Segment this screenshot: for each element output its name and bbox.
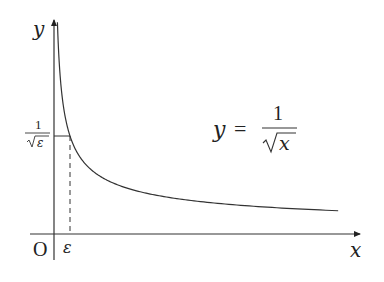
diagram-canvas: y x O ε 1 ε y = 1 x [0, 0, 384, 282]
equation-lhs: y [212, 117, 226, 142]
y-axis-label: y [32, 17, 45, 41]
equation-label: y = 1 x [212, 102, 297, 154]
y-marker-radicand: ε [37, 136, 43, 150]
x-axis-label: x [350, 238, 361, 262]
y-marker-numerator: 1 [35, 117, 42, 132]
equation-numerator: 1 [273, 102, 283, 124]
y-marker-label: 1 ε [25, 117, 50, 150]
function-curve [57, 22, 338, 210]
epsilon-label: ε [63, 238, 72, 257]
equation-radicand: x [279, 132, 290, 154]
equation-equals: = [234, 116, 246, 141]
origin-label: O [33, 238, 47, 260]
